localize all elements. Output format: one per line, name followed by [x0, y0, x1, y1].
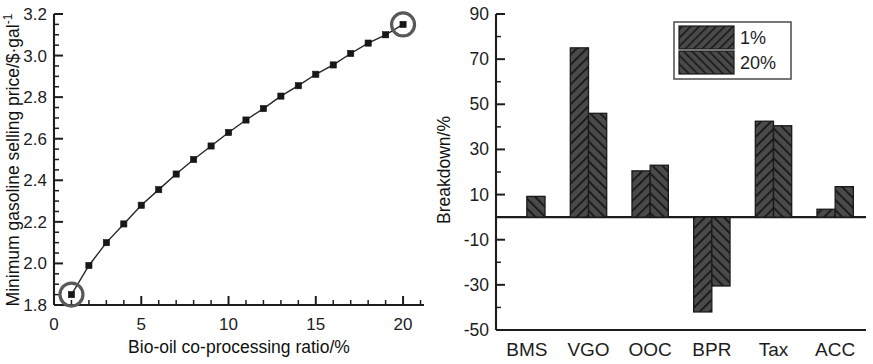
line-chart-axes [54, 14, 424, 305]
bar-bpr-20pct [712, 217, 730, 286]
y-axis-title-superscript: -1 [1, 13, 15, 24]
category-label-ooc: OOC [629, 339, 672, 360]
bar-tax-1pct [755, 121, 773, 217]
data-point-marker [156, 187, 162, 193]
line-chart-x-ticks: 05101520 [49, 296, 420, 334]
bar-chart-svg: Breakdown/% -50-30-101030507090 BMSVGOOO… [436, 0, 873, 364]
y-tick-label: 90 [470, 4, 490, 24]
data-point-marker [191, 156, 197, 162]
data-point-marker [121, 221, 127, 227]
data-point-marker [365, 40, 371, 46]
bar-ooc-20pct [650, 165, 668, 217]
data-point-marker [86, 262, 92, 268]
bar-acc-1pct [817, 209, 835, 217]
line-chart-series [60, 13, 415, 306]
y-tick-label: 30 [470, 139, 490, 159]
y-tick-label: 10 [470, 185, 490, 205]
y-tick-label: -30 [464, 275, 490, 295]
bar-chart-category-labels: BMSVGOOOCBPRTaxACC [506, 339, 855, 360]
x-tick-label: 0 [49, 315, 58, 334]
bar-bpr-1pct [694, 217, 712, 312]
x-tick-label: 5 [137, 315, 146, 334]
y-tick-label: 2.0 [23, 254, 47, 273]
category-label-tax: Tax [759, 339, 789, 360]
y-tick-label: 3.0 [23, 47, 47, 66]
data-point-marker [330, 62, 336, 68]
svg-text:Minimum gasoline selling price: Minimum gasoline selling price/$·gal-1 [1, 13, 23, 306]
bar-chart-panel: Breakdown/% -50-30-101030507090 BMSVGOOO… [436, 0, 873, 364]
data-point-marker [400, 21, 406, 27]
line-chart-highlight-rings [60, 13, 415, 306]
data-point-marker [383, 32, 389, 38]
y-tick-label: 50 [470, 94, 490, 114]
legend-label-1pct: 1% [740, 28, 766, 48]
x-tick-label: 10 [219, 315, 238, 334]
y-tick-label: 1.8 [23, 296, 47, 315]
line-chart-markers [68, 21, 406, 297]
data-point-marker [295, 83, 301, 89]
y-tick-label: 2.6 [23, 130, 47, 149]
figure-container: Minimum gasoline selling price/$·gal-1 1… [0, 0, 873, 364]
bar-chart-legend[interactable]: 1%20% [674, 22, 791, 79]
bar-acc-20pct [835, 187, 853, 217]
data-point-marker [173, 171, 179, 177]
y-tick-label: 3.2 [23, 5, 47, 24]
bar-vgo-1pct [570, 48, 588, 217]
data-point-marker [348, 50, 354, 56]
bar-chart-bars [527, 48, 854, 312]
line-chart-panel: Minimum gasoline selling price/$·gal-1 1… [0, 0, 436, 364]
line-chart-x-axis-title: Bio-oil co-processing ratio/% [128, 337, 350, 357]
bar-chart-y-axis-title: Breakdown/% [436, 116, 454, 224]
line-chart-svg: Minimum gasoline selling price/$·gal-1 1… [0, 0, 436, 364]
data-point-marker [208, 143, 214, 149]
x-tick-label: 15 [306, 315, 325, 334]
y-tick-label: -50 [464, 320, 490, 340]
category-label-bpr: BPR [692, 339, 731, 360]
data-point-marker [103, 240, 109, 246]
legend-swatch-1pct[interactable] [679, 26, 734, 49]
y-tick-label: 2.2 [23, 213, 47, 232]
bar-vgo-20pct [589, 113, 607, 217]
data-point-marker [278, 93, 284, 99]
data-point-marker [260, 105, 266, 111]
data-point-marker [138, 202, 144, 208]
y-axis-title-text: Minimum gasoline selling price/$·gal [3, 24, 23, 306]
data-point-marker [243, 117, 249, 123]
line-chart-y-axis-title: Minimum gasoline selling price/$·gal-1 [1, 13, 23, 306]
legend-swatch-20pct[interactable] [679, 51, 734, 74]
category-label-acc: ACC [815, 339, 855, 360]
y-tick-label: 2.4 [23, 171, 47, 190]
bar-bms-20pct [527, 196, 545, 217]
data-point-marker [68, 292, 74, 298]
y-tick-label: -10 [464, 230, 490, 250]
legend-label-20pct: 20% [740, 53, 776, 73]
bar-chart-y-ticks: -50-30-101030507090 [464, 4, 505, 340]
category-label-vgo: VGO [567, 339, 609, 360]
data-point-marker [313, 71, 319, 77]
data-point-marker [225, 129, 231, 135]
x-tick-label: 20 [394, 315, 413, 334]
category-label-bms: BMS [506, 339, 547, 360]
bar-ooc-1pct [632, 171, 650, 217]
y-tick-label: 2.8 [23, 88, 47, 107]
line-chart-y-ticks: 1.82.02.22.42.62.83.03.2 [23, 5, 63, 315]
y-tick-label: 70 [470, 49, 490, 69]
bar-tax-20pct [774, 126, 792, 217]
